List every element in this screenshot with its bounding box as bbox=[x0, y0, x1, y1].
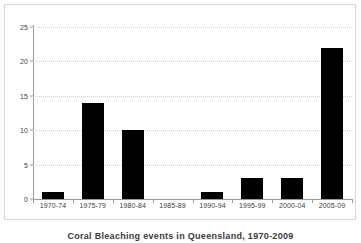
bar-slot bbox=[153, 27, 193, 199]
y-axis-tick-label: 25 bbox=[20, 24, 28, 31]
bars-group bbox=[33, 27, 352, 199]
bar-slot bbox=[113, 27, 153, 199]
y-axis-tick-label: 5 bbox=[24, 161, 28, 168]
bar-slot bbox=[73, 27, 113, 199]
bar-slot bbox=[193, 27, 233, 199]
x-axis-tick-label: 2000-04 bbox=[272, 202, 312, 209]
bar-slot bbox=[33, 27, 73, 199]
x-axis-tick-label: 1980-84 bbox=[113, 202, 153, 209]
bar bbox=[82, 103, 104, 199]
x-axis-tick-label: 1985-89 bbox=[153, 202, 193, 209]
plot-area: 0510152025 bbox=[33, 27, 352, 199]
bar-slot bbox=[232, 27, 272, 199]
bar bbox=[321, 48, 343, 199]
x-axis-labels-group: 1970-741975-791980-841985-891990-941995-… bbox=[33, 202, 352, 209]
bar bbox=[201, 192, 223, 199]
bar bbox=[241, 178, 263, 199]
y-axis-tick-label: 20 bbox=[20, 58, 28, 65]
bar-chart-figure: 0510152025 1970-741975-791980-841985-891… bbox=[0, 0, 361, 243]
x-axis-tick-label: 1995-99 bbox=[232, 202, 272, 209]
bar bbox=[122, 130, 144, 199]
bar bbox=[42, 192, 64, 199]
y-axis-tick-label: 10 bbox=[20, 127, 28, 134]
x-axis-tick-label: 1975-79 bbox=[73, 202, 113, 209]
bar-slot bbox=[272, 27, 312, 199]
y-axis-tick-label: 0 bbox=[24, 196, 28, 203]
x-tick-mark bbox=[352, 199, 353, 203]
y-axis-tick-label: 15 bbox=[20, 92, 28, 99]
figure-caption: Coral Bleaching events in Queensland, 19… bbox=[0, 231, 361, 241]
x-axis-tick-label: 1990-94 bbox=[193, 202, 233, 209]
x-axis-tick-label: 2005-09 bbox=[312, 202, 352, 209]
bar-slot bbox=[312, 27, 352, 199]
bar bbox=[281, 178, 303, 199]
chart-frame: 0510152025 1970-741975-791980-841985-891… bbox=[4, 4, 356, 220]
x-axis-tick-label: 1970-74 bbox=[33, 202, 73, 209]
